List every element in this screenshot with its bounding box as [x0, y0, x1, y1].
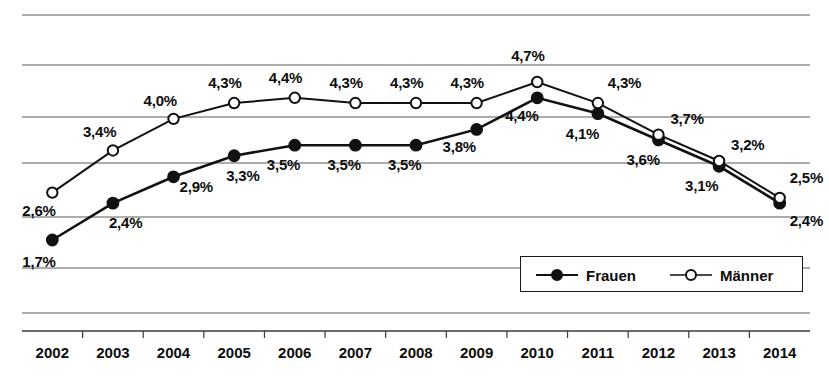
data-point-männer-2013 [714, 156, 724, 166]
legend-label-frauen: Frauen [586, 267, 636, 284]
data-point-männer-2011 [593, 98, 603, 108]
data-point-frauen-2006 [289, 140, 300, 151]
value-label-männer-2014: 2,5% [790, 169, 823, 186]
x-tick-label-2008: 2008 [386, 344, 446, 361]
x-tick-label-2006: 2006 [265, 344, 325, 361]
data-point-männer-2014 [774, 193, 784, 203]
legend-entry-maenner: Männer [669, 257, 773, 293]
x-tick-label-2010: 2010 [507, 344, 567, 361]
value-label-männer-2005: 4,3% [208, 74, 241, 91]
value-label-frauen-2013: 3,1% [685, 177, 718, 194]
data-point-frauen-2010 [532, 92, 543, 103]
data-point-frauen-2004 [168, 171, 179, 182]
value-label-frauen-2007: 3,5% [327, 156, 360, 173]
value-label-frauen-2014: 2,4% [790, 212, 823, 229]
value-label-männer-2012: 3,7% [670, 110, 703, 127]
x-axis [22, 331, 810, 338]
value-label-frauen-2004: 2,9% [180, 178, 213, 195]
value-label-frauen-2009: 3,8% [443, 138, 476, 155]
value-label-männer-2004: 4,0% [144, 92, 177, 109]
data-point-männer-2006 [290, 93, 300, 103]
data-point-männer-2005 [229, 98, 239, 108]
value-label-männer-2002: 2,6% [22, 202, 55, 219]
data-point-männer-2008 [411, 98, 421, 108]
value-label-männer-2011: 4,3% [608, 74, 641, 91]
x-tick-label-2009: 2009 [447, 344, 507, 361]
x-tick-label-2007: 2007 [325, 344, 385, 361]
value-label-frauen-2011: 4,1% [566, 125, 599, 142]
data-point-frauen-2002 [47, 235, 58, 246]
x-tick-label-2005: 2005 [204, 344, 264, 361]
data-point-männer-2002 [47, 187, 57, 197]
data-point-männer-2007 [350, 98, 360, 108]
data-point-männer-2012 [653, 129, 663, 139]
x-tick-label-2004: 2004 [144, 344, 204, 361]
line-chart: 1,7%2,4%2,9%3,3%3,5%3,5%3,5%3,8%4,4%4,1%… [0, 0, 829, 380]
chart-legend: Frauen Männer [520, 256, 803, 292]
open-circle-icon [669, 268, 713, 282]
value-label-frauen-2003: 2,4% [109, 214, 142, 231]
value-label-männer-2010: 4,7% [511, 47, 544, 64]
data-point-frauen-2008 [411, 140, 422, 151]
value-label-männer-2007: 4,3% [329, 74, 362, 91]
value-label-frauen-2012: 3,6% [626, 151, 659, 168]
x-tick-label-2002: 2002 [22, 344, 82, 361]
value-label-männer-2013: 3,2% [731, 136, 764, 153]
value-label-frauen-2008: 3,5% [388, 156, 421, 173]
data-point-männer-2010 [532, 77, 542, 87]
value-label-männer-2008: 4,3% [390, 74, 423, 91]
legend-entry-frauen: Frauen [535, 257, 636, 293]
value-label-männer-2006: 4,4% [269, 69, 302, 86]
x-tick-label-2012: 2012 [628, 344, 688, 361]
data-point-frauen-2005 [229, 150, 240, 161]
value-label-frauen-2010: 4,4% [505, 107, 538, 124]
legend-label-maenner: Männer [720, 267, 773, 284]
value-label-männer-2003: 3,4% [83, 123, 116, 140]
x-tick-label-2014: 2014 [750, 344, 810, 361]
x-tick-label-2011: 2011 [568, 344, 628, 361]
data-point-männer-2004 [168, 114, 178, 124]
data-point-männer-2003 [108, 145, 118, 155]
data-point-frauen-2011 [592, 108, 603, 119]
value-label-frauen-2002: 1,7% [22, 253, 55, 270]
x-tick-label-2013: 2013 [689, 344, 749, 361]
filled-circle-icon [535, 268, 579, 282]
data-point-männer-2009 [471, 98, 481, 108]
data-point-frauen-2009 [471, 124, 482, 135]
value-label-männer-2009: 4,3% [451, 74, 484, 91]
data-point-frauen-2003 [108, 198, 119, 209]
value-label-frauen-2005: 3,3% [226, 167, 259, 184]
x-tick-label-2003: 2003 [83, 344, 143, 361]
value-label-frauen-2006: 3,5% [267, 156, 300, 173]
data-point-frauen-2007 [350, 140, 361, 151]
